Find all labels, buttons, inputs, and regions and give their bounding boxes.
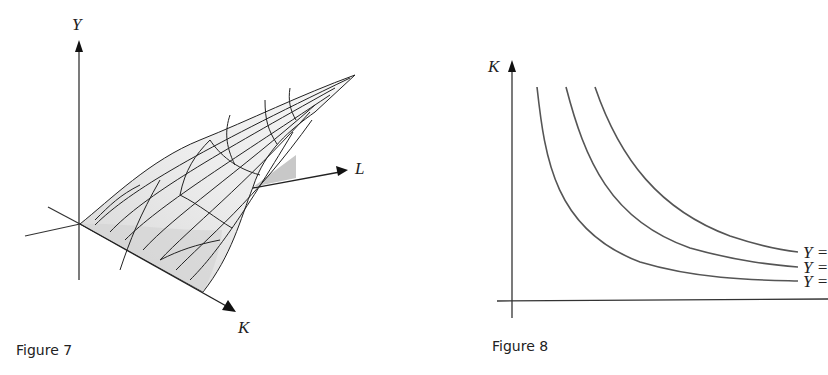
k-axis-arrow-icon: [508, 60, 516, 72]
l-axis-label: L: [354, 159, 364, 178]
isoquant-label-inner: Y =: [803, 272, 828, 291]
isoquant-inner: [537, 87, 798, 281]
l-axis-arrow-icon: [336, 166, 348, 176]
k-axis-label: K: [487, 57, 501, 76]
figure-7-diagram: Y K L: [0, 0, 414, 340]
isoquant-outer: [595, 87, 798, 252]
back-axis-left: [25, 224, 80, 236]
figure-8-diagram: K Y = Y = Y =: [414, 0, 828, 340]
figure-7-caption: Figure 7: [16, 342, 72, 358]
l-axis: [497, 299, 828, 301]
y-axis-arrow-icon: [75, 40, 83, 52]
back-axis-up-left: [48, 207, 80, 224]
k-axis-label: K: [237, 318, 251, 337]
production-surface: [80, 75, 355, 292]
figure-8-caption: Figure 8: [492, 338, 548, 354]
k-axis-arrow-icon: [222, 300, 236, 312]
y-axis-label: Y: [72, 15, 83, 34]
